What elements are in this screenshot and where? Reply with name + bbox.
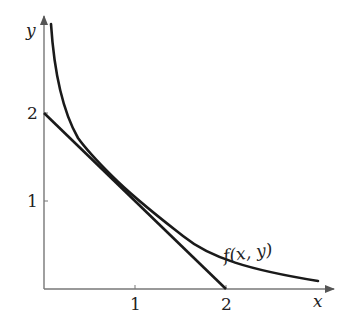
y-axis-label: y (25, 20, 36, 40)
curve-f (51, 24, 318, 281)
x-tick-label-1: 1 (130, 294, 141, 314)
straight-line (44, 113, 226, 289)
y-tick-label-1: 1 (27, 191, 38, 211)
curve-label: f(x, y) (220, 239, 274, 266)
x-tick-label-2: 2 (221, 294, 232, 314)
x-axis-label: x (313, 291, 323, 311)
diagram-canvas: y x 2 1 1 2 f(x, y) (0, 0, 349, 327)
y-tick-label-2: 2 (27, 103, 38, 123)
